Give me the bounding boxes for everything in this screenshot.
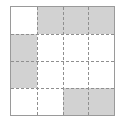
grid-cell-r3-c3 [63,61,89,88]
grid-cell-r3-c1 [11,61,37,88]
canvas [0,0,124,126]
grid-cell-r3-c4 [88,61,114,88]
grid-cell-r4-c3 [63,88,89,115]
grid-cell-r1-c1 [11,7,37,34]
grid-cell-r3-c2 [37,61,63,88]
grid-cell-r4-c1 [11,88,37,115]
grid-cell-r4-c4 [88,88,114,115]
grid-cell-r1-c2 [37,7,63,34]
grid-cell-r2-c4 [88,34,114,61]
grid-cell-r1-c3 [63,7,89,34]
grid-cell-r4-c2 [37,88,63,115]
grid-cell-r1-c4 [88,7,114,34]
grid-cell-container [11,7,114,115]
grid-cell-r2-c3 [63,34,89,61]
grid-figure [10,6,115,116]
grid-cell-r2-c1 [11,34,37,61]
grid-cell-r2-c2 [37,34,63,61]
